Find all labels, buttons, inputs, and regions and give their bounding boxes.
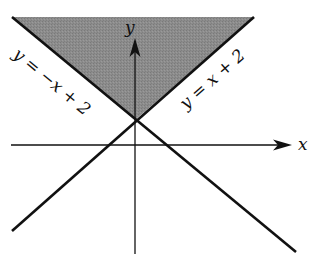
inequality-graph: y x y = −x + 2 y = x + 2 [0,0,310,254]
x-axis-label: x [298,134,308,154]
y-axis-label: y [124,17,135,37]
